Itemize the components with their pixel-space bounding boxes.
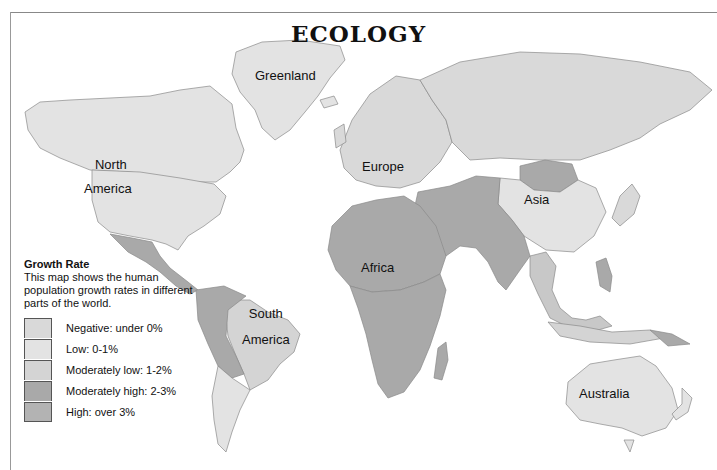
label-south-america-line2: America: [242, 330, 290, 350]
label-north-america-line1: North: [90, 155, 132, 175]
legend-swatch-negative: [24, 318, 52, 338]
label-north-america-line2: America: [84, 179, 132, 199]
label-south-america: South America: [242, 304, 290, 350]
region-greenland: [232, 40, 345, 140]
label-greenland: Greenland: [255, 66, 316, 86]
label-africa: Africa: [361, 258, 394, 278]
region-sub-saharan-africa: [350, 274, 446, 398]
region-canada: [25, 86, 244, 182]
legend-label: Negative: under 0%: [66, 322, 163, 334]
label-australia: Australia: [579, 384, 630, 404]
legend-item: Moderately low: 1-2%: [24, 359, 224, 380]
legend-label: High: over 3%: [66, 406, 135, 418]
legend-item: Negative: under 0%: [24, 317, 224, 338]
region-philippines: [596, 258, 612, 292]
legend-swatch-high: [24, 402, 52, 422]
legend-swatch-moderately-high: [24, 381, 52, 401]
label-north-america: North America: [90, 155, 132, 199]
region-madagascar: [434, 342, 448, 380]
label-europe: Europe: [362, 157, 404, 177]
region-tasmania: [624, 440, 634, 452]
legend: Growth Rate This map shows the human pop…: [24, 258, 224, 422]
label-asia: Asia: [524, 190, 549, 210]
legend-item: Moderately high: 2-3%: [24, 380, 224, 401]
region-iceland: [320, 96, 338, 108]
legend-item: Low: 0-1%: [24, 338, 224, 359]
legend-swatch-low: [24, 339, 52, 359]
page-title: ECOLOGY: [0, 20, 717, 47]
legend-label: Low: 0-1%: [66, 343, 118, 355]
legend-item: High: over 3%: [24, 401, 224, 422]
legend-description: This map shows the human population grow…: [24, 271, 199, 310]
legend-label: Moderately high: 2-3%: [66, 385, 176, 397]
region-russia: [420, 52, 712, 160]
region-japan: [612, 184, 640, 226]
legend-label: Moderately low: 1-2%: [66, 364, 172, 376]
label-south-america-line1: South: [242, 304, 290, 324]
legend-swatch-moderately-low: [24, 360, 52, 380]
legend-title: Growth Rate: [24, 258, 224, 270]
legend-items: Negative: under 0% Low: 0-1% Moderately …: [24, 317, 224, 422]
